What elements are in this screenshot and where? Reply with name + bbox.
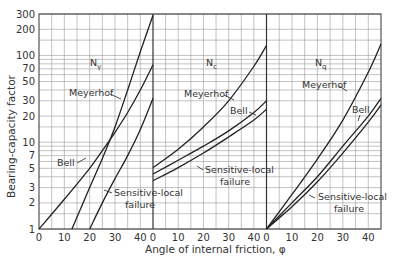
x-tick-label: 0 xyxy=(36,232,42,243)
y-tick-label: 30 xyxy=(22,95,35,106)
label-bell-nq: Bell xyxy=(352,104,370,115)
leader-arrow xyxy=(77,158,86,163)
x-tick-label: 10 xyxy=(58,232,71,243)
y-tick-label: 50 xyxy=(22,76,35,87)
label-sensitive-ngamma-2: failure xyxy=(125,199,155,210)
label-bell-ngamma: Bell xyxy=(57,157,75,168)
x-tick-label: 20 xyxy=(83,232,96,243)
x-tick-label: 40 xyxy=(248,232,261,243)
y-tick-label: 3 xyxy=(29,182,35,193)
bearing-capacity-chart: 1235710203050701002003000102030400102030… xyxy=(0,0,393,264)
y-tick-label: 200 xyxy=(16,24,35,35)
label-sensitive-nc-2: failure xyxy=(220,176,250,187)
x-tick-label: 20 xyxy=(311,232,324,243)
y-tick-label: 5 xyxy=(29,163,35,174)
x-axis-title: Angle of internal friction, φ xyxy=(145,243,286,255)
y-tick-label: 20 xyxy=(22,111,35,122)
y-tick-label: 2 xyxy=(29,197,35,208)
x-tick-label: 20 xyxy=(197,232,210,243)
label-sensitive-ngamma-1: Sensitive-local xyxy=(114,187,183,198)
label-bell-nc: Bell xyxy=(230,105,248,116)
x-tick-label: 10 xyxy=(286,232,299,243)
label-meyerhof-nc: Meyerhof xyxy=(184,88,229,99)
x-tick-label: 30 xyxy=(222,232,235,243)
label-sensitive-nc-1: Sensitive-local xyxy=(205,164,274,175)
y-tick-label: 7 xyxy=(29,150,35,161)
x-tick-label: 10 xyxy=(172,232,185,243)
label-meyerhof-ngamma: Meyerhof xyxy=(69,87,114,98)
y-tick-label: 100 xyxy=(16,50,35,61)
leader-arrow xyxy=(309,195,315,198)
y-tick-label: 10 xyxy=(22,137,35,148)
y-tick-label: 70 xyxy=(22,63,35,74)
leader-arrow xyxy=(197,166,203,170)
x-tick-label: 40 xyxy=(134,232,147,243)
y-tick-label: 300 xyxy=(16,9,35,20)
y-tick-label: 1 xyxy=(29,224,35,235)
label-sensitive-nq-2: failure xyxy=(334,203,364,214)
label-meyerhof-nq: Meyerhof xyxy=(302,79,347,90)
axis-ticks: 1235710203050701002003000102030400102030… xyxy=(16,9,375,244)
label-sensitive-nq-1: Sensitive-local xyxy=(318,191,387,202)
x-tick-label: 0 xyxy=(263,232,269,243)
x-tick-label: 40 xyxy=(362,232,375,243)
x-tick-label: 30 xyxy=(336,232,349,243)
x-tick-label: 0 xyxy=(150,232,156,243)
x-tick-label: 30 xyxy=(109,232,122,243)
y-axis-title: Bearing-capacity factor xyxy=(5,74,17,198)
